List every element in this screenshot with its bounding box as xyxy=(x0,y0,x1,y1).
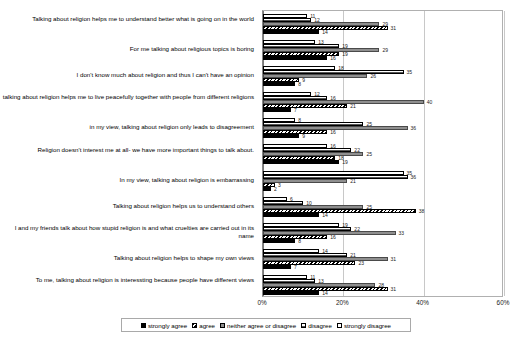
bar xyxy=(263,175,408,179)
legend-label: disagree xyxy=(308,322,332,329)
bar-track: 36 xyxy=(263,175,502,179)
bar-track: 25 xyxy=(263,205,502,209)
bar xyxy=(263,66,335,70)
bar-track: 16 xyxy=(263,56,502,60)
bar xyxy=(263,18,311,22)
bar-value-label: 14 xyxy=(321,290,328,295)
x-tick-label: 40% xyxy=(416,298,429,307)
bar-value-label: 14 xyxy=(321,212,328,217)
bar xyxy=(263,52,339,56)
bar xyxy=(263,30,319,34)
bar xyxy=(263,283,375,287)
category-label: In my view, talking about religion is em… xyxy=(2,176,254,184)
bar-value-label: 31 xyxy=(390,256,397,261)
legend-item[interactable]: strongly disagree xyxy=(337,322,391,329)
x-axis-tick-labels: 0%20%40%60% xyxy=(262,298,503,310)
bar-value-label: 16 xyxy=(329,56,336,61)
bar xyxy=(263,48,379,52)
bar-value-label: 19 xyxy=(341,44,348,49)
bar-rows: 1431291211161929191389263518721401612916… xyxy=(263,11,502,296)
bar xyxy=(263,179,347,183)
bar xyxy=(263,197,287,201)
bar-group: 1431291211 xyxy=(263,11,502,37)
bar-value-label: 29 xyxy=(381,48,388,53)
bar-track: 19 xyxy=(263,52,502,56)
bar-value-label: 25 xyxy=(365,152,372,157)
bar-value-label: 40 xyxy=(426,100,433,105)
bar-value-label: 11 xyxy=(309,274,315,279)
bar-track: 14 xyxy=(263,291,502,295)
bar-track: 2 xyxy=(263,187,502,191)
bar-track: 23 xyxy=(263,261,502,265)
bar xyxy=(263,223,339,227)
bar xyxy=(263,96,327,100)
bar xyxy=(263,26,388,30)
category-axis-labels: Talking about religion helps me to under… xyxy=(0,10,258,297)
category-label: I and my friends talk about how stupid r… xyxy=(2,224,254,240)
bar xyxy=(263,122,363,126)
bar-track: 13 xyxy=(263,40,502,44)
category-label: Religion doesn't interest me at all- we … xyxy=(2,146,254,154)
bar-value-label: 25 xyxy=(365,122,372,127)
bar-track: 7 xyxy=(263,108,502,112)
bar-track: 31 xyxy=(263,287,502,291)
x-tick-label: 20% xyxy=(336,298,349,307)
bar-track: 9 xyxy=(263,134,502,138)
bar-group: 23213635 xyxy=(263,168,502,194)
bar-value-label: 9 xyxy=(301,134,305,139)
bar-group: 89263518 xyxy=(263,63,502,89)
bar-value-label: 35 xyxy=(406,70,413,75)
bar-value-label: 25 xyxy=(365,204,372,209)
bar xyxy=(263,148,351,152)
bar xyxy=(263,213,319,217)
bar-group: 721401612 xyxy=(263,89,502,115)
bar-value-label: 22 xyxy=(353,148,360,153)
bar-value-label: 13 xyxy=(317,40,324,45)
bar-track: 33 xyxy=(263,231,502,235)
bar xyxy=(263,92,311,96)
bar-track: 8 xyxy=(263,82,502,86)
bar xyxy=(263,134,299,138)
bar xyxy=(263,108,291,112)
bar xyxy=(263,261,355,265)
bar-track: 3 xyxy=(263,183,502,187)
legend-item[interactable]: agree xyxy=(192,322,215,329)
bar-track: 16 xyxy=(263,235,502,239)
bar-track: 22 xyxy=(263,148,502,152)
plot-area: 1431291211161929191389263518721401612916… xyxy=(262,10,503,297)
bar xyxy=(263,209,416,213)
bar-track: 19 xyxy=(263,44,502,48)
bar-value-label: 19 xyxy=(341,222,348,227)
bar-track: 29 xyxy=(263,22,502,26)
bar-track: 31 xyxy=(263,26,502,30)
bar-track: 35 xyxy=(263,171,502,175)
category-label: Talking about religion helps me to under… xyxy=(2,15,254,23)
bar-value-label: 22 xyxy=(353,226,360,231)
x-tick-label: 60% xyxy=(497,298,510,307)
bar xyxy=(263,275,307,279)
bar-value-label: 10 xyxy=(305,200,312,205)
bar-track: 8 xyxy=(263,239,502,243)
bar-track: 14 xyxy=(263,30,502,34)
bar xyxy=(263,253,347,257)
bar-track: 21 xyxy=(263,104,502,108)
chart-legend: strongly agreeagreeneither agree or disa… xyxy=(121,318,411,332)
bar xyxy=(263,40,315,44)
bar-track: 40 xyxy=(263,100,502,104)
bar-track: 16 xyxy=(263,130,502,134)
x-tick-label: 0% xyxy=(257,298,266,307)
bar-group: 723312114 xyxy=(263,246,502,272)
bar-group: 91636258 xyxy=(263,115,502,141)
legend-swatch-icon xyxy=(337,323,342,328)
legend-label: agree xyxy=(199,322,215,329)
legend-item[interactable]: strongly agree xyxy=(141,322,187,329)
bar-value-label: 8 xyxy=(297,238,301,243)
legend-item[interactable]: neither agree or disagree xyxy=(220,322,296,329)
bar xyxy=(263,201,303,205)
legend-item[interactable]: disagree xyxy=(301,322,332,329)
legend-label: strongly disagree xyxy=(344,322,391,329)
bar-value-label: 38 xyxy=(418,208,425,213)
bar xyxy=(263,44,339,48)
bar-value-label: 29 xyxy=(381,22,388,27)
bar xyxy=(263,227,351,231)
